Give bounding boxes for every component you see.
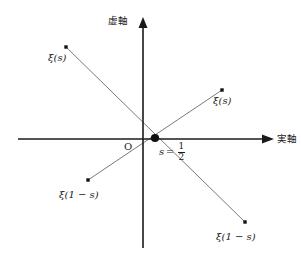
label-xi-1ms-lower-left: ξ(1 − s) — [59, 190, 99, 200]
point-marker-xi-s-upper-left — [64, 45, 67, 48]
real-axis-label: 実軸 — [277, 134, 297, 144]
figure-canvas — [0, 0, 301, 267]
point-marker-xi-s-upper-right — [220, 88, 223, 91]
imaginary-axis-arrowhead — [139, 17, 148, 28]
label-xi-s-upper-left: ξ(s) — [48, 53, 66, 63]
critical-line-value-label: s = 1 2 — [159, 142, 185, 162]
complex-plane-figure: 虚軸 実軸 O s = 1 2 ξ(s) ξ(s) ξ(1 − s) ξ(1 −… — [0, 0, 301, 267]
critical-line-variable: s — [159, 147, 164, 157]
real-axis-arrowhead — [262, 135, 274, 144]
point-marker-xi-1ms-lower-left — [86, 178, 89, 181]
equals-sign: = — [166, 147, 174, 157]
point-marker-xi-1ms-lower-right — [243, 220, 246, 223]
fraction-denominator: 2 — [178, 153, 186, 163]
imaginary-axis-label: 虚軸 — [108, 16, 128, 26]
label-xi-1ms-lower-right: ξ(1 − s) — [216, 232, 256, 242]
fraction-numerator: 1 — [178, 142, 186, 152]
one-half-fraction: 1 2 — [178, 142, 186, 162]
label-xi-s-upper-right: ξ(s) — [213, 96, 231, 106]
origin-label: O — [124, 142, 132, 152]
critical-point-marker — [151, 134, 159, 142]
